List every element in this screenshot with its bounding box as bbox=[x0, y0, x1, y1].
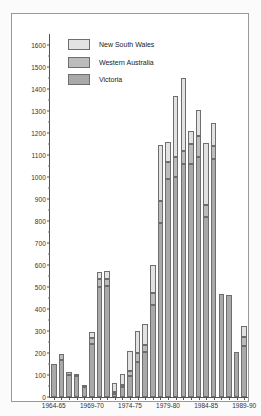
bar-1968-69 bbox=[82, 385, 87, 397]
y-tick-minor bbox=[48, 364, 50, 365]
bar-segment-western-australia bbox=[89, 338, 94, 345]
bar-segment-western-australia bbox=[196, 136, 201, 157]
x-tick-mark bbox=[61, 397, 62, 400]
y-tick-label: 1500 bbox=[31, 64, 50, 71]
bar-segment-new-south-wales bbox=[173, 96, 178, 158]
y-tick-label: 900 bbox=[35, 196, 50, 203]
y-tick-label: 800 bbox=[35, 218, 50, 225]
bar-segment-victoria bbox=[66, 375, 71, 397]
x-tick-mark bbox=[122, 397, 123, 400]
y-tick-label: 300 bbox=[35, 328, 50, 335]
legend-item: New South Wales bbox=[68, 39, 154, 50]
bar-segment-victoria bbox=[89, 344, 94, 397]
x-tick-label: 1984-85 bbox=[194, 402, 218, 409]
bar-segment-victoria bbox=[181, 164, 186, 397]
legend-item: Western Australia bbox=[68, 57, 154, 68]
bar-segment-victoria bbox=[51, 364, 56, 397]
bar-1970-71 bbox=[97, 272, 102, 397]
y-tick-label: 100 bbox=[35, 372, 50, 379]
bar-segment-victoria bbox=[135, 362, 140, 397]
bar-1982-83 bbox=[188, 131, 193, 397]
bar-1964-65 bbox=[51, 364, 56, 397]
y-tick-minor bbox=[48, 166, 50, 167]
bar-segment-western-australia bbox=[188, 144, 193, 164]
x-tick-label: 1989-90 bbox=[232, 402, 256, 409]
y-tick-minor bbox=[48, 144, 50, 145]
x-tick-mark bbox=[176, 397, 177, 400]
bar-segment-new-south-wales bbox=[188, 131, 193, 144]
legend-label: New South Wales bbox=[99, 41, 154, 48]
bar-1973-74 bbox=[120, 374, 125, 397]
bar-segment-new-south-wales bbox=[203, 143, 208, 205]
legend-item: Victoria bbox=[68, 74, 154, 85]
bar-segment-new-south-wales bbox=[150, 265, 155, 293]
bar-segment-new-south-wales bbox=[104, 271, 109, 280]
legend-label: Victoria bbox=[99, 76, 122, 83]
x-tick-label: 1969-70 bbox=[80, 402, 104, 409]
y-tick-minor bbox=[48, 320, 50, 321]
bar-1983-84 bbox=[196, 110, 201, 397]
x-tick-mark bbox=[214, 397, 215, 400]
y-tick-minor bbox=[48, 232, 50, 233]
bar-segment-new-south-wales bbox=[241, 326, 246, 337]
y-tick-minor bbox=[48, 56, 50, 57]
bar-segment-western-australia bbox=[104, 279, 109, 286]
bar-segment-new-south-wales bbox=[158, 145, 163, 201]
bar-1977-78 bbox=[150, 265, 155, 397]
y-tick-minor bbox=[48, 254, 50, 255]
y-tick-label: 200 bbox=[35, 350, 50, 357]
x-tick-mark bbox=[153, 397, 154, 400]
y-tick-label: 1200 bbox=[31, 130, 50, 137]
x-tick-mark bbox=[115, 397, 116, 400]
bar-1984-85 bbox=[203, 143, 208, 397]
bar-segment-western-australia bbox=[241, 337, 246, 347]
bar-segment-victoria bbox=[226, 295, 231, 397]
x-tick-label: 1974-75 bbox=[118, 402, 142, 409]
x-tick-mark bbox=[107, 397, 108, 400]
bar-segment-victoria bbox=[173, 177, 178, 397]
y-tick-minor bbox=[48, 78, 50, 79]
bar-1979-80 bbox=[165, 142, 170, 397]
x-tick-mark bbox=[84, 397, 85, 400]
bar-segment-victoria bbox=[211, 159, 216, 397]
bar-segment-western-australia bbox=[165, 162, 170, 180]
x-tick-label: 1964-65 bbox=[42, 402, 66, 409]
chart-screenshot: 0100200300400500600700800900100011001200… bbox=[0, 0, 261, 416]
bar-segment-new-south-wales bbox=[97, 272, 102, 280]
chart-frame: 0100200300400500600700800900100011001200… bbox=[11, 13, 249, 402]
bar-1988-89 bbox=[234, 352, 239, 397]
bar-1986-87 bbox=[219, 294, 224, 397]
legend-swatch-icon bbox=[68, 74, 90, 85]
y-tick-minor bbox=[48, 122, 50, 123]
y-tick-label: 1100 bbox=[32, 152, 50, 159]
x-tick-mark bbox=[69, 397, 70, 400]
y-tick-minor bbox=[48, 210, 50, 211]
legend-swatch-icon bbox=[68, 39, 90, 50]
bar-segment-victoria bbox=[74, 376, 79, 397]
x-tick-mark bbox=[221, 397, 222, 400]
bar-segment-victoria bbox=[59, 360, 64, 397]
y-tick-minor bbox=[48, 342, 50, 343]
bar-segment-western-australia bbox=[142, 345, 147, 352]
bar-segment-victoria bbox=[234, 352, 239, 397]
bar-1967-68 bbox=[74, 374, 79, 397]
bar-segment-victoria bbox=[203, 217, 208, 397]
y-tick-label: 1300 bbox=[31, 108, 50, 115]
x-tick-mark bbox=[206, 397, 207, 400]
bar-segment-new-south-wales bbox=[165, 142, 170, 162]
bar-segment-new-south-wales bbox=[181, 78, 186, 151]
bar-1987-88 bbox=[226, 295, 231, 397]
bar-segment-victoria bbox=[241, 346, 246, 397]
x-axis bbox=[49, 397, 248, 398]
y-tick-minor bbox=[48, 276, 50, 277]
bar-1969-70 bbox=[89, 332, 94, 397]
y-tick-label: 600 bbox=[35, 262, 50, 269]
x-tick-mark bbox=[130, 397, 131, 400]
y-tick-minor bbox=[48, 298, 50, 299]
x-tick-mark bbox=[77, 397, 78, 400]
bar-segment-new-south-wales bbox=[135, 331, 140, 353]
bar-segment-victoria bbox=[158, 223, 163, 397]
y-tick-minor bbox=[48, 100, 50, 101]
x-tick-mark bbox=[54, 397, 55, 400]
bar-segment-new-south-wales bbox=[211, 123, 216, 146]
